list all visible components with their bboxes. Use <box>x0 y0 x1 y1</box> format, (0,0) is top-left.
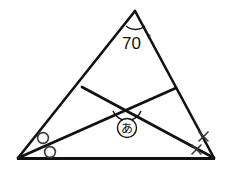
degree-symbol: ° <box>147 33 151 44</box>
apex-angle-value: 70 <box>122 34 141 53</box>
geometry-figure: 70 ° あ <box>0 0 231 170</box>
triangle-left-edge <box>18 11 135 158</box>
cevian-from-bottom-left <box>18 88 176 158</box>
geometry-canvas: 70 ° あ <box>0 0 231 170</box>
circle-mark-lower <box>45 147 56 158</box>
unknown-angle-label: あ <box>121 122 133 136</box>
circle-mark-upper <box>38 133 49 144</box>
